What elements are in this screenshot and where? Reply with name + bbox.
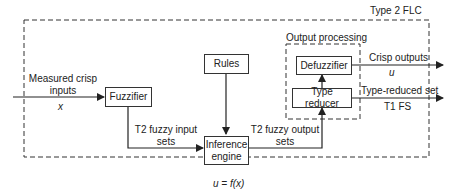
type-reducer-block: Type reducer xyxy=(292,88,352,108)
diagram-title: Type 2 FLC xyxy=(370,5,422,17)
crisp-output-variable: u xyxy=(389,67,395,79)
fuzzifier-block: Fuzzifier xyxy=(105,87,152,107)
t1-fs-label: T1 FS xyxy=(384,101,411,113)
function-label: u = f(x) xyxy=(213,178,244,190)
output-processing-label: Output processing xyxy=(286,32,367,44)
rules-block: Rules xyxy=(204,54,249,74)
inference-engine-block: Inference engine xyxy=(204,136,249,165)
crisp-outputs-label: Crisp outputs xyxy=(369,52,428,64)
t2-output-sets-label: T2 fuzzy output sets xyxy=(250,124,320,148)
input-variable: x xyxy=(58,101,63,113)
input-label: Measured crisp inputs xyxy=(28,73,98,97)
t2-input-sets-label: T2 fuzzy input sets xyxy=(133,124,199,148)
defuzzifier-block: Defuzzifier xyxy=(296,56,352,75)
type-reduced-set-label: Type-reduced set xyxy=(361,85,438,97)
diagram-lines xyxy=(0,0,455,195)
